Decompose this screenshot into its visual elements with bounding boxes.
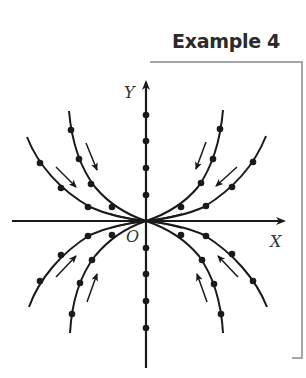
trajectory-ur-inner <box>146 110 223 221</box>
arrow-ur-2 <box>196 142 206 169</box>
arrow-ul-2 <box>86 143 97 170</box>
y-axis-label: Y <box>124 83 136 102</box>
trajectory-ul-inner <box>69 111 146 221</box>
x-axis-label: X <box>268 232 282 251</box>
arrow-lr-2 <box>197 274 207 302</box>
phase-portrait-diagram: Y X O <box>0 0 306 378</box>
frame-bracket <box>150 62 302 358</box>
arrow-ll-2 <box>87 274 97 302</box>
trajectory-lr-inner <box>146 221 223 333</box>
